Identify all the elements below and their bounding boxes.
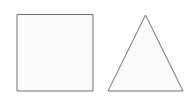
shapes-figure <box>0 0 194 106</box>
shape-canvas-container <box>0 0 194 106</box>
square-shape <box>17 15 93 92</box>
